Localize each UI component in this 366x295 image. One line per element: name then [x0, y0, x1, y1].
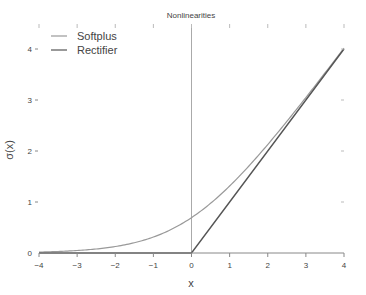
x-tick-label: 0: [189, 261, 194, 270]
nonlinearities-chart: −4−3−2−10123401234 Nonlinearities x σ(x)…: [0, 0, 366, 295]
legend-label-rectifier: Rectifier: [77, 44, 118, 56]
x-tick-label: −2: [111, 261, 121, 270]
x-tick-label: −3: [73, 261, 83, 270]
y-tick-label: 1: [28, 198, 33, 207]
x-tick-label: 1: [227, 261, 232, 270]
x-tick-label: 4: [342, 261, 347, 270]
y-tick-label: 4: [28, 45, 33, 54]
y-axis-label: σ(x): [3, 140, 15, 160]
y-tick-label: 2: [28, 147, 33, 156]
legend-label-softplus: Softplus: [77, 30, 117, 42]
x-tick-label: 3: [304, 261, 309, 270]
x-tick-label: −1: [149, 261, 159, 270]
y-tick-label: 0: [28, 249, 33, 258]
legend: Softplus Rectifier: [51, 30, 118, 56]
x-axis-label: x: [188, 277, 194, 289]
chart-title: Nonlinearities: [167, 11, 215, 20]
x-tick-label: −4: [34, 261, 44, 270]
y-tick-label: 3: [28, 96, 33, 105]
x-tick-label: 2: [266, 261, 271, 270]
